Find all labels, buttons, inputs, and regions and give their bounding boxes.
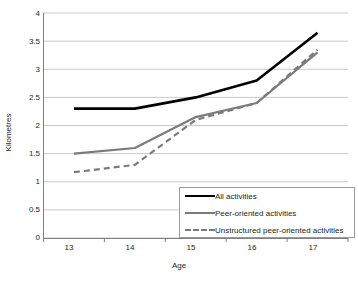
solid-gray-line-icon	[185, 209, 215, 219]
legend-item: All activities	[180, 188, 354, 205]
chart-legend: All activities Peer-oriented activities …	[179, 187, 355, 238]
data-series-layer	[74, 33, 318, 173]
legend-item: Unstructured peer-oriented activities	[180, 222, 354, 239]
plot-area	[0, 0, 358, 282]
line-chart: 4 3.5 3 2.5 2 1.5 1 0.5 0 13 14 15 16 17…	[0, 0, 358, 282]
legend-item: Peer-oriented activities	[180, 205, 354, 222]
data-series-line	[74, 52, 318, 153]
legend-item-label: Peer-oriented activities	[215, 210, 296, 218]
legend-item-label: Unstructured peer-oriented activities	[215, 227, 344, 235]
solid-black-line-icon	[185, 192, 215, 202]
dashed-gray-line-icon	[185, 226, 215, 236]
legend-item-label: All activities	[215, 193, 257, 201]
